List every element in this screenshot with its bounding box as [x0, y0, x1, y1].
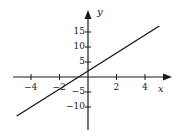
y-tick-label: 15	[74, 27, 85, 36]
plot-area	[0, 0, 179, 132]
y-tick-label: 5	[79, 57, 85, 66]
line-graph-figure: −4−224−10−551015 x y	[0, 0, 179, 132]
y-axis-label: y	[97, 7, 103, 17]
x-tick-label: 2	[114, 83, 120, 92]
y-tick-label: −10	[66, 102, 85, 111]
y-tick-label: −5	[72, 87, 85, 96]
x-tick-label: 4	[142, 83, 148, 92]
axes	[13, 10, 172, 130]
y-axis-arrow-icon	[85, 10, 92, 19]
x-axis-label: x	[158, 84, 164, 94]
x-axis-arrow-icon	[163, 74, 172, 81]
y-tick-label: 10	[74, 42, 85, 51]
x-tick-label: −2	[53, 83, 66, 92]
x-tick-label: −4	[24, 83, 37, 92]
